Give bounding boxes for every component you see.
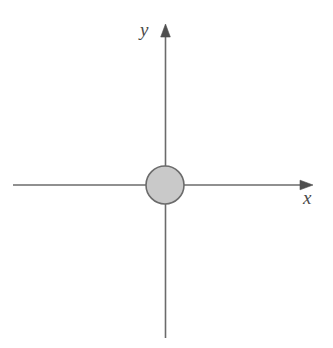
axes-diagram-svg [0,0,333,348]
coordinate-axes-figure: y x [0,0,333,348]
origin-disc [146,166,184,204]
y-axis-label: y [140,20,148,39]
y-axis-arrowhead [161,24,171,37]
x-axis-label: x [303,188,311,207]
